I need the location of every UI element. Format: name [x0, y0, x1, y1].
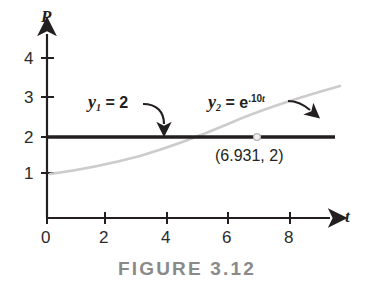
y2-equation-rest: = e — [225, 94, 248, 111]
y2-subscript: 2 — [216, 102, 221, 113]
y-tick-label-4: 4 — [24, 50, 33, 67]
x-tick-label-2: 2 — [99, 229, 108, 246]
y-tick-label-3: 3 — [24, 89, 33, 106]
y2-exponent-variable: t — [262, 93, 265, 104]
y-axis-label: P — [41, 8, 51, 25]
intersection-point-marker — [254, 134, 261, 141]
y-tick-label-2: 2 — [24, 129, 33, 146]
plot-canvas — [0, 0, 374, 296]
y-tick-label-1: 1 — [24, 165, 33, 182]
y2-exponent-coefficient: .10 — [248, 93, 262, 104]
y2-variable: y — [208, 92, 216, 112]
x-tick-label-6: 6 — [222, 229, 231, 246]
y2-exponent: .10t — [248, 93, 265, 104]
y1-variable: y — [88, 92, 96, 112]
y1-equation-rest: = 2 — [105, 94, 128, 111]
y2-annotation-arrow — [288, 101, 310, 110]
figure-container: P t 1 2 3 4 0 2 4 6 8 y1 = 2 y2 = e.10t … — [0, 0, 374, 296]
y1-subscript: 1 — [96, 102, 101, 113]
intersection-coordinate-label: (6.931, 2) — [215, 148, 283, 164]
curve-label-y2: y2 = e.10t — [208, 93, 265, 111]
x-tick-label-8: 8 — [284, 229, 293, 246]
x-tick-label-0: 0 — [41, 229, 50, 246]
x-axis-label: t — [345, 208, 350, 225]
figure-caption: FIGURE 3.12 — [0, 258, 374, 280]
x-tick-label-4: 4 — [161, 229, 170, 246]
curve-label-y1: y1 = 2 — [88, 93, 128, 111]
y1-annotation-arrow — [143, 104, 164, 124]
